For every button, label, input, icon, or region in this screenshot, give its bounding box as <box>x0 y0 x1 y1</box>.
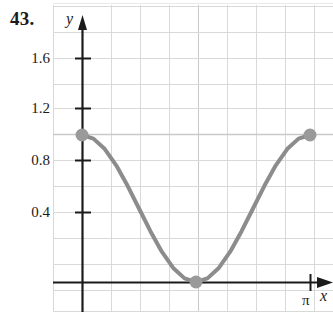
point-right-endpoint <box>304 129 317 142</box>
axes <box>53 15 333 312</box>
figure-43: 43. <box>0 0 333 320</box>
y-tick-label-1-2: 1.2 <box>16 100 50 117</box>
x-tick-label-pi: π <box>302 292 310 309</box>
y-axis-arrowhead <box>78 15 87 30</box>
y-tick-label-0-4: 0.4 <box>16 204 50 221</box>
x-axis-label: x <box>320 287 327 305</box>
graph-panel <box>53 5 333 312</box>
point-minimum <box>190 276 203 289</box>
point-left-endpoint <box>76 129 89 142</box>
y-axis-label: y <box>66 10 73 28</box>
tick-marks <box>75 59 311 292</box>
problem-number-label: 43. <box>10 8 34 30</box>
y-tick-label-1-6: 1.6 <box>16 50 50 67</box>
grid-lines <box>53 5 333 312</box>
graph-plot <box>53 5 333 312</box>
curve-cos-squared <box>82 135 310 282</box>
y-tick-label-0-8: 0.8 <box>16 152 50 169</box>
